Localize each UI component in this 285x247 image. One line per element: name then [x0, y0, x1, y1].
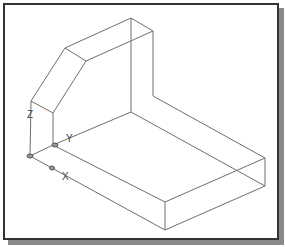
wireframe-drawing: Z Y X: [0, 0, 285, 247]
z-axis-label: Z: [27, 109, 33, 120]
y-axis-label: Y: [66, 133, 73, 144]
ucs-origin-icon: [27, 154, 33, 158]
wireframe-model: [30, 18, 265, 230]
ucs-icon: Z Y X: [27, 109, 73, 182]
ucs-x-marker-icon: [50, 166, 55, 170]
ucs-y-marker-icon: [52, 143, 58, 147]
x-axis-label: X: [62, 171, 69, 182]
